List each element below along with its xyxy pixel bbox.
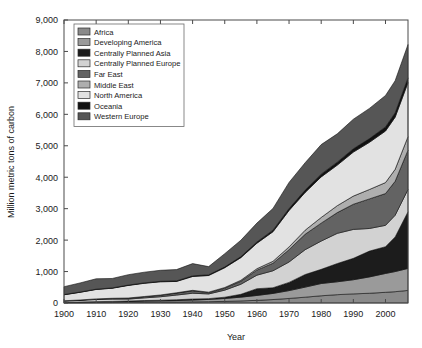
x-tick-label: 1970 xyxy=(279,309,299,319)
x-tick-label: 2000 xyxy=(375,309,395,319)
legend-swatch-north-america xyxy=(78,92,90,99)
legend-swatch-africa xyxy=(78,28,90,35)
legend-swatch-far-east xyxy=(78,70,90,77)
x-tick-label: 1960 xyxy=(247,309,267,319)
x-tick-label: 1900 xyxy=(54,309,74,319)
y-tick-label: 1,000 xyxy=(35,267,58,277)
y-axis-title: Million metric tons of carbon xyxy=(6,106,16,218)
legend-swatch-centrally-planned-europe xyxy=(78,60,90,67)
legend-label-africa: Africa xyxy=(94,28,114,37)
legend-label-developing-america: Developing America xyxy=(94,38,162,47)
y-tick-label: 0 xyxy=(53,298,58,308)
y-tick-label: 9,000 xyxy=(35,15,58,25)
legend-label-north-america: North America xyxy=(94,91,143,100)
x-tick-label: 1940 xyxy=(183,309,203,319)
x-tick-label: 1950 xyxy=(215,309,235,319)
x-tick-label: 1990 xyxy=(343,309,363,319)
y-tick-label: 7,000 xyxy=(35,78,58,88)
stacked-area-chart: 1900191019201930194019501960197019801990… xyxy=(0,0,422,348)
x-axis-title: Year xyxy=(227,332,245,342)
x-tick-label: 1980 xyxy=(311,309,331,319)
legend-swatch-oceania xyxy=(78,102,90,109)
y-tick-label: 4,000 xyxy=(35,173,58,183)
legend-swatch-developing-america xyxy=(78,39,90,46)
chart-figure: 1900191019201930194019501960197019801990… xyxy=(0,0,422,348)
legend-label-centrally-planned-asia: Centrally Planned Asia xyxy=(94,49,171,58)
legend-swatch-middle-east xyxy=(78,81,90,88)
legend-swatch-western-europe xyxy=(78,113,90,120)
y-tick-label: 8,000 xyxy=(35,47,58,57)
legend-swatch-centrally-planned-asia xyxy=(78,49,90,56)
y-tick-label: 2,000 xyxy=(35,236,58,246)
y-tick-label: 6,000 xyxy=(35,110,58,120)
x-tick-label: 1930 xyxy=(150,309,170,319)
y-tick-label: 5,000 xyxy=(35,141,58,151)
legend-label-middle-east: Middle East xyxy=(94,81,135,90)
legend-label-western-europe: Western Europe xyxy=(94,112,149,121)
legend-label-far-east: Far East xyxy=(94,70,124,79)
legend-label-centrally-planned-europe: Centrally Planned Europe xyxy=(94,59,181,68)
legend-label-oceania: Oceania xyxy=(94,102,123,111)
y-tick-label: 3,000 xyxy=(35,204,58,214)
x-tick-label: 1920 xyxy=(118,309,138,319)
x-tick-label: 1910 xyxy=(86,309,106,319)
chart-legend: AfricaDeveloping AmericaCentrally Planne… xyxy=(74,24,184,126)
